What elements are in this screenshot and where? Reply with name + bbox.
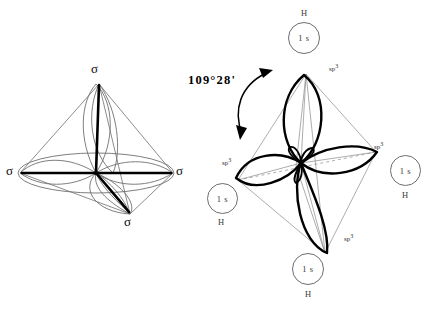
hydrogen-1s-text-bottom: 1 s [292, 264, 324, 274]
caption-strip [0, 303, 430, 311]
angle-arrow-group [238, 73, 266, 134]
sigma-label-bottom: σ [124, 215, 131, 228]
sp3-label-left-sup: 3 [228, 157, 231, 163]
sp3-lobes [236, 75, 377, 253]
hydrogen-1s-text-top: 1 s [288, 33, 320, 43]
sp3-label-left: sp3 [222, 160, 231, 167]
hydrogen-label-right: H [402, 191, 408, 200]
left-tetrahedron-group [18, 84, 174, 214]
sigma-bond-top [96, 85, 99, 173]
sp3-label-right: sp3 [374, 144, 383, 151]
sigma-label-top: σ [91, 62, 98, 75]
left-central-atom [94, 171, 98, 175]
sp3-label-top: sp3 [329, 66, 338, 73]
sp3-label-top-sup: 3 [335, 63, 338, 69]
sigma-label-left: σ [6, 164, 13, 177]
hydrogen-label-left: H [218, 218, 224, 227]
hydrogen-1s-text-left: 1 s [207, 194, 238, 204]
right-central-atom [299, 161, 303, 165]
hydrogen-label-bottom: H [305, 290, 311, 299]
figure-canvas [0, 0, 430, 311]
hydrogen-1s-text-right: 1 s [390, 166, 421, 176]
sp3-label-right-sup: 3 [380, 141, 383, 147]
right-sp3-group [236, 74, 377, 253]
hydrogen-1s-circle-top: 1 s [288, 22, 320, 54]
hydrogen-1s-circle-left: 1 s [207, 183, 238, 214]
sp3-lobe-left [236, 155, 301, 185]
hydrogen-1s-circle-bottom: 1 s [292, 253, 324, 285]
hydrogen-1s-circle-right: 1 s [390, 155, 421, 186]
sp3-framework-edges [238, 74, 376, 253]
bond-angle-label: 109°28' [188, 74, 236, 87]
orbital-hybridization-figure: σ σ σ σ 109°28' sp3 sp3 sp3 sp3 H 1 s 1 … [0, 0, 430, 311]
angle-arrow-heads [236, 68, 273, 140]
sigma-label-right: σ [176, 164, 183, 177]
sp3-label-bottom: sp3 [344, 236, 353, 243]
sp3-label-bottom-sup: 3 [350, 233, 353, 239]
hydrogen-label-top: H [301, 9, 307, 18]
